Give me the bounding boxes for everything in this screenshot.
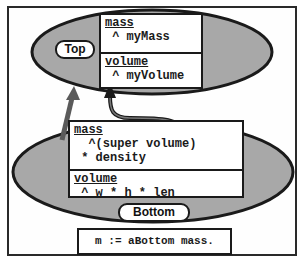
method-body: ^ myVolume <box>105 69 197 83</box>
top-label: Top <box>55 40 95 59</box>
method-body-line: ^(super volume) <box>74 137 238 151</box>
top-methods-box: mass ^ myMass volume ^ myVolume <box>99 13 203 89</box>
bottom-method-volume: volume ^ w * h * len <box>70 169 242 201</box>
method-selector: volume <box>105 55 197 69</box>
method-body-line: * density <box>74 151 238 165</box>
method-body: ^ w * h * len <box>74 186 238 200</box>
method-selector: volume <box>74 172 238 186</box>
method-body: ^ myMass <box>105 30 197 44</box>
bottom-label: Bottom <box>118 203 190 222</box>
method-selector: mass <box>105 16 197 30</box>
top-method-volume: volume ^ myVolume <box>101 52 201 84</box>
method-selector: mass <box>74 123 238 137</box>
bottom-methods-box: mass ^(super volume) * density volume ^ … <box>68 120 244 198</box>
bottom-method-mass: mass ^(super volume) * density <box>70 122 242 169</box>
top-method-mass: mass ^ myMass <box>101 15 201 52</box>
code-statement: m := aBottom mass. <box>77 228 232 255</box>
